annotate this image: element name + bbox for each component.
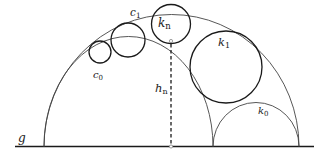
- label-kn: kn: [158, 16, 171, 31]
- label-k0: k0: [258, 105, 269, 118]
- inner-arc-c0: [44, 36, 213, 146]
- center-kn-marker: [169, 39, 172, 42]
- label-g: g: [18, 131, 26, 145]
- label-k1: k1: [218, 35, 230, 50]
- label-hn: hn: [155, 81, 168, 96]
- label-c1: c1: [130, 6, 141, 20]
- label-c0: c0: [93, 69, 103, 82]
- circle-k0: [213, 103, 299, 147]
- circle-chain-3: [89, 41, 111, 63]
- circle-chain-2: [111, 23, 145, 57]
- foot-hn-marker: [169, 145, 172, 148]
- pappus-chain-diagram: g c1 c0 kn k1 k0 hn: [0, 0, 329, 152]
